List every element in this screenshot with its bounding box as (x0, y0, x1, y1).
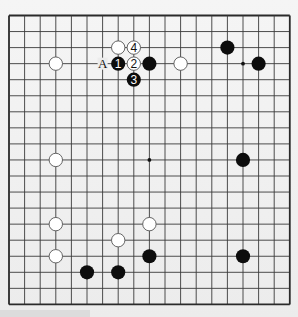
black-stone[interactable] (142, 249, 156, 263)
white-stone[interactable] (143, 217, 156, 230)
black-stone[interactable] (111, 265, 125, 279)
white-stone[interactable] (49, 217, 62, 230)
white-stone[interactable]: 4 (127, 41, 140, 55)
black-stone[interactable] (236, 153, 250, 167)
black-stone[interactable]: 1 (111, 57, 125, 71)
white-stone[interactable] (49, 250, 62, 263)
move-number-label: 1 (115, 57, 122, 71)
white-stone-disc (143, 217, 156, 230)
black-stone-disc (111, 265, 125, 279)
star-point (148, 158, 152, 162)
black-stone[interactable] (220, 41, 234, 55)
black-stone[interactable] (252, 57, 266, 71)
black-stone-disc (80, 265, 94, 279)
black-stone-disc (142, 57, 156, 71)
white-stone[interactable] (49, 153, 62, 166)
black-stone[interactable]: 3 (127, 73, 141, 87)
white-stone-disc (49, 57, 62, 70)
white-stone[interactable] (49, 57, 62, 70)
move-number-label: 4 (130, 41, 137, 55)
white-stone-disc (49, 250, 62, 263)
black-stone-disc (142, 249, 156, 263)
black-stone-disc (236, 249, 250, 263)
black-stone-disc (220, 41, 234, 55)
white-stone-disc (174, 57, 187, 70)
move-number-label: 3 (130, 73, 137, 87)
black-stone-disc (252, 57, 266, 71)
white-stone-disc (112, 41, 125, 54)
black-stone[interactable] (236, 249, 250, 263)
white-stone[interactable]: 2 (127, 57, 140, 71)
move-number-label: 2 (130, 57, 137, 71)
white-stone-disc (49, 153, 62, 166)
white-stone[interactable] (112, 41, 125, 54)
white-stone-disc (49, 217, 62, 230)
star-point (241, 62, 245, 66)
black-stone-disc (236, 153, 250, 167)
black-stone[interactable] (80, 265, 94, 279)
markers-layer: A (98, 56, 108, 71)
white-stone[interactable] (112, 234, 125, 247)
black-stone[interactable] (142, 57, 156, 71)
white-stone-disc (112, 234, 125, 247)
go-board[interactable]: 4123 A (0, 0, 298, 317)
point-marker-label: A (98, 56, 108, 71)
white-stone[interactable] (174, 57, 187, 70)
